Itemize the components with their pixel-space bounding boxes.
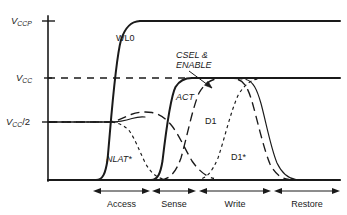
axis-label-vcc: VCC [16, 72, 32, 84]
csel-enable-label-group: CSEL & ENABLE [176, 50, 213, 70]
phase-restore: Restore [274, 188, 340, 209]
waveform-write-fall-dashed [238, 80, 340, 181]
phase-access: Access [93, 188, 150, 209]
signal-label-wl0: WL0 [116, 33, 135, 43]
waveforms-group [48, 21, 340, 180]
csel-enable-line1: CSEL & [176, 50, 208, 60]
waveform-act [48, 78, 192, 180]
signal-label-d1: D1 [205, 116, 217, 126]
phase-restore-arrow-left [274, 188, 282, 194]
phase-sense: Sense [152, 188, 196, 209]
timing-diagram-canvas: VCCP VCC VCC/2 WL0 ACT D1 NLAT* D1* CSEL… [0, 0, 347, 215]
phase-sense-arrow-right [188, 188, 196, 194]
axis-label-vccp: VCCP [11, 15, 32, 27]
rails-group [48, 21, 340, 180]
csel-enable-callout-group [189, 71, 212, 88]
signal-label-nlat: NLAT* [106, 154, 132, 164]
phase-label-write: Write [225, 199, 246, 209]
phase-label-sense: Sense [161, 199, 187, 209]
phase-sense-arrow-left [152, 188, 160, 194]
phase-access-arrow-right [142, 188, 150, 194]
timing-diagram-figure: VCCP VCC VCC/2 WL0 ACT D1 NLAT* D1* CSEL… [0, 0, 347, 215]
signal-label-act: ACT [175, 92, 196, 102]
phase-label-access: Access [107, 199, 137, 209]
waveform-nlat-head [48, 117, 145, 122]
phase-restore-arrow-right [332, 188, 340, 194]
y-axis-group [42, 16, 55, 181]
phase-write: Write [199, 188, 271, 209]
axis-label-vcc-half: VCC/2 [6, 116, 30, 128]
signal-label-d1star: D1* [231, 152, 247, 162]
phase-markers-group: Access Sense Write Restore [93, 188, 340, 209]
phase-access-arrow-left [93, 188, 101, 194]
phase-write-arrow-left [199, 188, 207, 194]
phase-label-restore: Restore [291, 199, 323, 209]
phase-write-arrow-right [263, 188, 271, 194]
callout-arrowhead [205, 81, 213, 88]
waveform-d1star-write-rise [196, 78, 340, 180]
csel-enable-line2: ENABLE [176, 60, 213, 70]
axis-labels-group: VCCP VCC VCC/2 [6, 15, 32, 128]
